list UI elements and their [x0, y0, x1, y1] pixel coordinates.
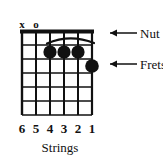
finger-dot-string-3-fret-2 [57, 45, 70, 58]
finger-dot-string-1-fret-3 [85, 59, 99, 73]
open-marker-string-5: o [33, 18, 39, 30]
string-number-6: 6 [19, 121, 26, 136]
chord-diagram-svg: x o [0, 0, 163, 163]
mute-marker-string-6: x [19, 18, 25, 30]
string-number-4: 4 [47, 121, 54, 136]
strings-axis-label: Strings [42, 140, 79, 155]
finger-dot-string-4-fret-2 [43, 45, 56, 58]
string-number-3: 3 [61, 121, 68, 136]
string-number-5: 5 [33, 121, 40, 136]
frets-callout-label: Frets [140, 57, 163, 72]
finger-dot-string-2-fret-2 [71, 45, 84, 58]
chord-diagram: x o [0, 0, 163, 163]
string-number-2: 2 [75, 121, 82, 136]
string-number-1: 1 [89, 121, 96, 136]
nut-callout-label: Nut [140, 26, 160, 41]
